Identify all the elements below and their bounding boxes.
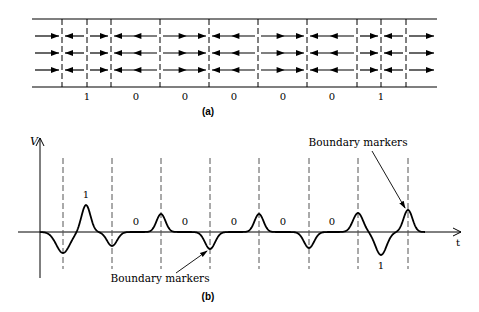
bit-label: 0 <box>329 216 335 227</box>
boundary-markers-label: Boundary markers <box>308 136 407 148</box>
arrow-left-icon <box>114 67 157 73</box>
arrow-left-icon <box>384 67 403 73</box>
bit-label: 1 <box>378 260 384 271</box>
bit-label: 0 <box>280 91 286 102</box>
bit-label: 1 <box>84 91 90 102</box>
arrow-right-icon <box>360 50 378 56</box>
pointer-arrow-icon <box>372 151 405 208</box>
arrow-right-icon <box>261 33 304 39</box>
bit-label: 1 <box>378 91 384 102</box>
arrow-right-icon <box>163 50 206 56</box>
arrow-right-icon <box>90 67 108 73</box>
arrow-right-icon <box>35 33 59 39</box>
boundary-markers-label: Boundary markers <box>110 272 209 284</box>
arrow-left-icon <box>212 50 255 56</box>
bit-label: 0 <box>231 216 237 227</box>
arrow-left-icon <box>310 33 354 39</box>
arrow-right-icon <box>360 67 378 73</box>
t-axis-label: t <box>456 237 460 248</box>
arrow-right-icon <box>261 50 304 56</box>
bit-label: 0 <box>280 216 286 227</box>
arrow-right-icon <box>409 33 434 39</box>
arrow-right-icon <box>90 50 108 56</box>
arrow-left-icon <box>384 50 403 56</box>
panel-a-domain-strip: 1000001 (a) <box>32 19 437 117</box>
arrow-right-icon <box>409 67 434 73</box>
bit-label: 0 <box>133 91 139 102</box>
arrow-left-icon <box>65 33 84 39</box>
arrow-right-icon <box>35 67 59 73</box>
arrow-left-icon <box>310 50 354 56</box>
caption-a: (a) <box>202 106 214 117</box>
arrow-left-icon <box>212 67 255 73</box>
bit-labels-b: 1000001 <box>83 189 384 271</box>
arrow-left-icon <box>65 50 84 56</box>
arrow-right-icon <box>409 50 434 56</box>
arrow-right-icon <box>35 50 59 56</box>
bit-label: 0 <box>182 91 188 102</box>
arrow-right-icon <box>261 67 304 73</box>
bit-labels-a: 1000001 <box>84 91 384 102</box>
arrow-left-icon <box>114 33 157 39</box>
arrow-left-icon <box>310 67 354 73</box>
magnetization-arrows <box>35 33 434 73</box>
arrow-right-icon <box>163 67 206 73</box>
panel-b-readback-signal: V t 1000001 Boundary markersBoundary mar… <box>18 135 461 302</box>
arrow-right-icon <box>360 33 378 39</box>
arrow-left-icon <box>65 67 84 73</box>
arrow-left-icon <box>114 50 157 56</box>
signal-waveform <box>40 205 425 255</box>
bit-label: 0 <box>182 216 188 227</box>
arrow-left-icon <box>384 33 403 39</box>
arrow-right-icon <box>163 33 206 39</box>
bit-label: 0 <box>329 91 335 102</box>
arrow-right-icon <box>90 33 108 39</box>
bit-label: 0 <box>231 91 237 102</box>
pointer-arrow-icon <box>176 251 207 273</box>
caption-b: (b) <box>202 291 215 302</box>
bit-label: 0 <box>133 216 139 227</box>
arrow-left-icon <box>212 33 255 39</box>
bit-label: 1 <box>83 189 89 200</box>
v-axis-label: V <box>30 135 39 148</box>
figure-canvas: 1000001 (a) V t 1000001 Boundary markers… <box>0 0 479 312</box>
